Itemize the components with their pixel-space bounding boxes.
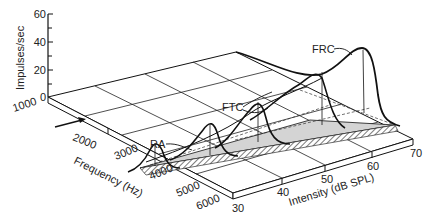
freq-tick-2000: 2000	[71, 131, 98, 151]
frequency-axis-title: Frequency (Hz)	[72, 154, 145, 199]
frc-label: FRC	[312, 43, 335, 55]
response-area-figure: 60 40 20 0 Impulses/sec	[0, 0, 435, 218]
intensity-tick-60: 60	[367, 160, 379, 172]
freq-tick-3000: 3000	[112, 142, 139, 162]
ra-label: RA	[150, 138, 166, 150]
y-tick-0: 0	[40, 91, 46, 103]
y-axis-title: Impulses/sec	[14, 25, 26, 90]
intensity-tick-30: 30	[232, 202, 244, 214]
intensity-tick-70: 70	[410, 147, 422, 159]
y-tick-60: 60	[34, 8, 46, 20]
y-axis: 60 40 20 0 Impulses/sec	[14, 8, 53, 103]
freq-tick-1000: 1000	[11, 95, 38, 114]
y-tick-40: 40	[34, 36, 46, 48]
freq-tick-5000: 5000	[174, 179, 201, 199]
ftc-label: FTC	[222, 101, 243, 113]
freq-tick-6000: 6000	[194, 192, 221, 212]
y-tick-20: 20	[34, 64, 46, 76]
